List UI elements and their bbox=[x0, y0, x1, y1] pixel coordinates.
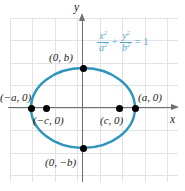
point-vertex-right bbox=[132, 105, 139, 112]
point-focus-right bbox=[116, 105, 123, 112]
label-focus-left: (−c, 0) bbox=[33, 115, 64, 126]
y-axis-label: y bbox=[74, 2, 79, 14]
point-covertex-top bbox=[80, 65, 87, 72]
x-axis-label: x bbox=[170, 114, 175, 126]
point-vertex-left bbox=[28, 105, 35, 112]
label-covertex-bottom: (0, −b) bbox=[45, 157, 76, 168]
point-covertex-bottom bbox=[80, 145, 87, 152]
eq-plus-operator: + bbox=[112, 37, 118, 47]
point-focus-left bbox=[43, 105, 50, 112]
eq-right-hand-side: 1 bbox=[143, 37, 148, 47]
ellipse-equation: x2 a2 + y2 b2 = 1 bbox=[96, 31, 150, 53]
fraction-x-over-a: x2 a2 bbox=[97, 31, 109, 53]
label-covertex-top: (0, b) bbox=[49, 52, 73, 63]
ellipse-figure: (−a, 0) (a, 0) (0, b) (0, −b) (−c, 0) (c… bbox=[0, 0, 185, 191]
eq-x-exponent: 2 bbox=[104, 29, 107, 36]
label-vertex-left: (−a, 0) bbox=[0, 92, 31, 103]
label-vertex-right: (a, 0) bbox=[138, 92, 162, 103]
label-focus-right: (c, 0) bbox=[100, 115, 123, 126]
eq-equals-operator: = bbox=[135, 37, 141, 47]
fraction-y-over-b: y2 b2 bbox=[120, 31, 132, 53]
eq-y-exponent: 2 bbox=[127, 29, 130, 36]
eq-a-exponent: 2 bbox=[104, 41, 107, 48]
eq-b-exponent: 2 bbox=[127, 41, 130, 48]
